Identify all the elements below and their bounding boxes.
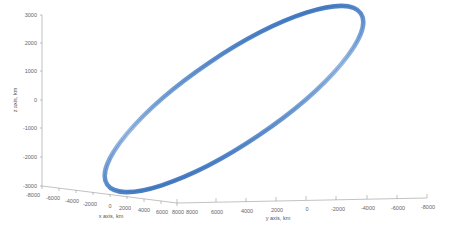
y-tick-label: -2000 xyxy=(331,206,345,212)
z-tick-label: 1000 xyxy=(25,68,37,74)
x-tick-label: -4000 xyxy=(65,198,79,204)
z-tick-label: 3000 xyxy=(25,12,37,18)
x-tick-label: 0 xyxy=(108,203,111,209)
y-tick-label: -6000 xyxy=(391,205,405,211)
y-tick-label: 6000 xyxy=(211,209,223,215)
y-tick-label: 2000 xyxy=(271,207,283,213)
x-tick-label: 4000 xyxy=(138,207,150,213)
x-tick-label: 8000 xyxy=(172,209,184,215)
y-tick-label: 4000 xyxy=(241,208,253,214)
z-tick-label: 0 xyxy=(34,97,37,103)
z-tick-label: -3000 xyxy=(23,183,37,189)
y-tick-label: -4000 xyxy=(361,205,375,211)
x-tick-label: -8000 xyxy=(26,192,40,198)
y-tick-label: 0 xyxy=(305,206,308,212)
x-tick-label: -2000 xyxy=(83,201,97,207)
x-tick-label: 2000 xyxy=(119,205,131,211)
z-tick-label: 2000 xyxy=(25,40,37,46)
y-axis: 8000 6000 4000 2000 0 -2000 -4000 -6000 … xyxy=(177,194,435,221)
y-tick-label: -8000 xyxy=(421,204,435,210)
z-axis: 3000 2000 1000 0 -1000 -2000 -3000 z axi… xyxy=(12,12,42,189)
orbit-ribbon xyxy=(83,0,386,221)
z-tick-label: -2000 xyxy=(23,154,37,160)
x-tick-label: -6000 xyxy=(46,195,60,201)
orbit-3d-chart: 3000 2000 1000 0 -1000 -2000 -3000 z axi… xyxy=(0,0,455,235)
z-tick-label: -1000 xyxy=(23,125,37,131)
x-tick-label: 6000 xyxy=(156,209,168,215)
x-axis-label: x axis, km xyxy=(99,213,124,219)
x-axis: -8000 -6000 -4000 -2000 0 2000 4000 6000… xyxy=(26,186,184,219)
y-tick-label: 8000 xyxy=(186,209,198,215)
y-axis-label: y axis, km xyxy=(266,215,291,221)
z-axis-label: z axis, km xyxy=(12,87,18,112)
